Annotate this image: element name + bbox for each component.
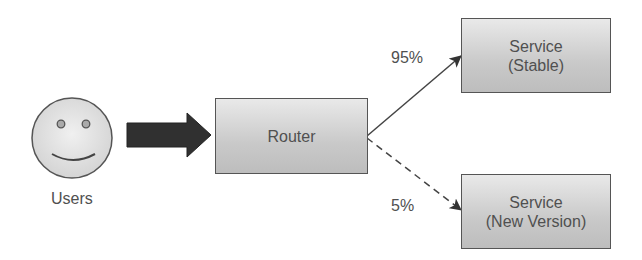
service-stable-node: Service (Stable) — [461, 18, 611, 93]
service-canary-line1: Service — [509, 193, 562, 212]
right-eye — [82, 120, 90, 128]
edge-router-to-stable — [367, 56, 461, 136]
canary-percentage-label: 5% — [391, 197, 414, 215]
smiley-face-icon — [32, 98, 112, 178]
left-eye — [57, 120, 65, 128]
stable-percentage-label: 95% — [391, 49, 423, 67]
users-label: Users — [51, 190, 93, 208]
service-canary-node: Service (New Version) — [461, 174, 611, 249]
router-label: Router — [267, 127, 315, 146]
service-canary-line2: (New Version) — [486, 212, 586, 231]
service-stable-line1: Service — [509, 37, 562, 56]
service-stable-line2: (Stable) — [508, 56, 564, 75]
router-node: Router — [215, 98, 368, 174]
thick-arrow-users-to-router — [127, 113, 211, 157]
